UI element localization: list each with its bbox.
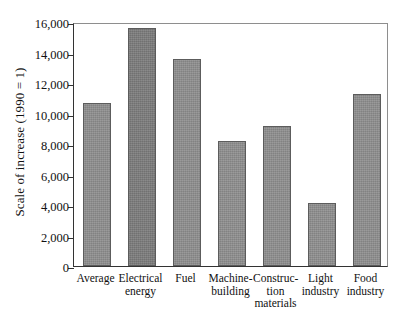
x-axis-tick-label: Food industry bbox=[343, 272, 388, 297]
bar bbox=[218, 141, 246, 266]
y-axis-tick-label: 6,000 bbox=[41, 169, 69, 184]
y-axis-title: Scale of increase (1990 = 1) bbox=[9, 8, 31, 276]
x-axis-tick-label: Machine- building bbox=[208, 272, 253, 297]
x-axis-tick-label: Construc- tion materials bbox=[253, 272, 298, 310]
bar bbox=[263, 126, 291, 266]
y-axis-tick-label: 2,000 bbox=[41, 230, 69, 245]
y-axis-tick-label: 8,000 bbox=[41, 139, 69, 154]
y-axis-tick-label: 12,000 bbox=[35, 78, 69, 93]
y-axis-tick-label: 14,000 bbox=[35, 47, 69, 62]
y-axis-tick-label: 10,000 bbox=[35, 108, 69, 123]
bar bbox=[308, 203, 336, 266]
bar bbox=[128, 28, 156, 266]
y-axis-tick-label: 0 bbox=[63, 261, 69, 276]
bar bbox=[353, 94, 381, 266]
bar bbox=[83, 103, 111, 266]
x-axis-tick-label: Light industry bbox=[298, 272, 343, 297]
x-axis-tick-label: Fuel bbox=[163, 272, 208, 285]
x-axis-tick-label: Electrical energy bbox=[118, 272, 163, 297]
x-axis-tick-label: Average bbox=[73, 272, 118, 285]
y-axis-tick-label: 16,000 bbox=[35, 17, 69, 32]
y-axis-tick-label: 4,000 bbox=[41, 200, 69, 215]
bar-chart-figure: Scale of increase (1990 = 1) 02,0004,000… bbox=[0, 0, 409, 320]
plot-area: 02,0004,0006,0008,00010,00012,00014,0001… bbox=[73, 23, 388, 267]
bar bbox=[173, 59, 201, 266]
